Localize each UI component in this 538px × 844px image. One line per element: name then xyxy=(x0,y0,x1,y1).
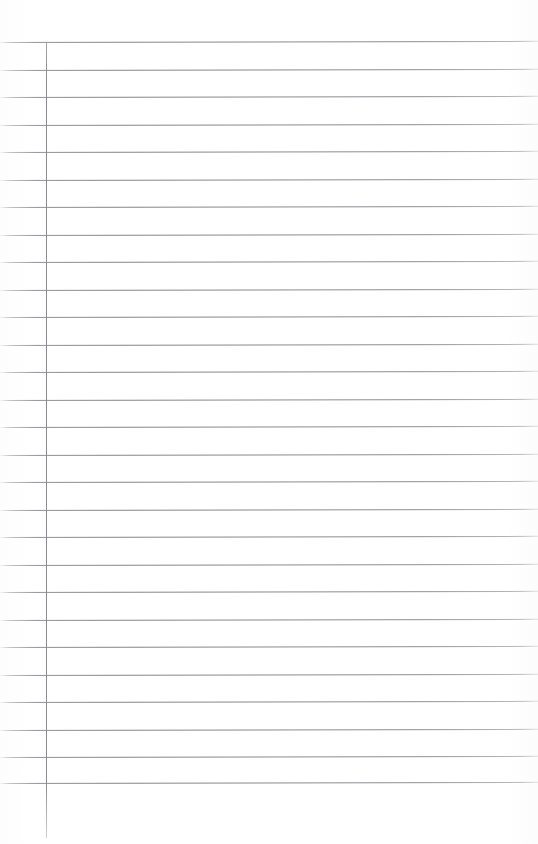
ruled-line xyxy=(0,233,538,235)
ruled-line xyxy=(0,673,538,675)
ruled-line xyxy=(0,316,538,318)
lined-paper-page: Blank Lined Paper xyxy=(0,0,538,844)
ruled-line xyxy=(0,426,538,428)
ruled-line xyxy=(0,261,538,263)
ruled-line xyxy=(0,782,538,784)
ruled-line xyxy=(0,398,538,400)
ruled-line xyxy=(0,371,538,373)
ruled-line xyxy=(0,178,538,180)
ruled-line xyxy=(0,728,538,730)
ruled-line xyxy=(0,563,538,565)
ruled-line xyxy=(0,591,538,593)
ruled-line xyxy=(0,508,538,510)
ruled-line xyxy=(0,96,538,98)
ruled-line xyxy=(0,68,538,70)
ruled-line xyxy=(0,453,538,455)
ruled-line xyxy=(0,343,538,345)
ruled-line xyxy=(0,41,538,43)
ruled-line xyxy=(0,288,538,290)
ruled-line xyxy=(0,701,538,703)
ruled-line xyxy=(0,151,538,153)
ruled-line xyxy=(0,123,538,125)
ruled-line xyxy=(0,481,538,483)
ruled-line xyxy=(0,536,538,538)
ruling-layer xyxy=(0,0,538,844)
vertical-margin-rule xyxy=(46,42,47,838)
ruled-line xyxy=(0,646,538,648)
ruled-line xyxy=(0,206,538,208)
ruled-line xyxy=(0,756,538,758)
ruled-line xyxy=(0,618,538,620)
